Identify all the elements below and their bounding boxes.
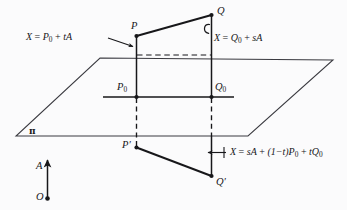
right-eq-base-subscript: 0	[238, 36, 242, 45]
point-dot-Pprime	[134, 145, 138, 149]
left-eq-equals: =	[35, 31, 41, 42]
annotation-left-line-equation: X = P0 + tA	[26, 32, 72, 43]
point-dot-Qprime	[209, 174, 213, 178]
plane-eq-term3-subscript: 0	[319, 150, 323, 159]
annotation-right-line-equation: X = Q0 + sA	[214, 33, 262, 44]
right-eq-X: X	[214, 32, 220, 43]
point-dot-Q0	[209, 95, 213, 99]
plane-eq-term2-subscript: 0	[295, 150, 299, 159]
point-dot-O	[45, 196, 50, 201]
right-eq-plus: +	[244, 32, 250, 43]
plane-label-pi: π	[29, 127, 36, 136]
plane-eq-term2: (1−t)P	[267, 146, 294, 157]
point-label-P0-subscript: 0	[123, 85, 127, 94]
point-label-Q0-subscript: 0	[223, 85, 227, 94]
point-label-Q: Q	[217, 6, 225, 17]
leader-arrow-left-equation	[108, 38, 133, 47]
right-eq-term: sA	[252, 32, 262, 43]
point-label-O: O	[36, 192, 44, 203]
right-eq-base: Q	[231, 32, 238, 43]
left-eq-plus: +	[55, 31, 61, 42]
left-eq-X: X	[26, 31, 32, 42]
point-label-Qprime: Q′	[216, 177, 226, 188]
plane-eq-term3: tQ	[309, 146, 319, 157]
point-dot-P	[134, 34, 138, 38]
point-label-Pprime: P′	[122, 140, 131, 151]
right-eq-equals: =	[223, 32, 229, 43]
plane-eq-plus1: +	[259, 146, 265, 157]
point-label-Q0-base: Q	[215, 81, 223, 92]
point-label-Q0: Q0	[215, 82, 226, 93]
left-eq-term: tA	[63, 31, 72, 42]
plane-eq-equals: =	[239, 146, 245, 157]
point-label-P: P	[131, 21, 137, 32]
plane-eq-X: X	[230, 146, 236, 157]
point-dot-P0	[134, 95, 138, 99]
point-label-P0: P0	[117, 82, 127, 93]
annotation-plane-equation: X = sA + (1−t)P0 + tQ0	[230, 147, 323, 158]
curved-hook-right-equation	[204, 24, 209, 33]
segment-p-q	[137, 15, 212, 36]
segment-pprime-qprime	[137, 148, 212, 177]
left-eq-base-subscript: 0	[49, 35, 53, 44]
point-dot-Q	[209, 13, 213, 17]
vector-label-A: A	[36, 161, 42, 172]
plane-eq-term1: sA	[247, 146, 257, 157]
geometry-figure: P Q P0 Q0 P′ Q′ O A π X = P0 + tA X = Q0…	[0, 0, 347, 210]
plane-eq-plus2: +	[301, 146, 307, 157]
